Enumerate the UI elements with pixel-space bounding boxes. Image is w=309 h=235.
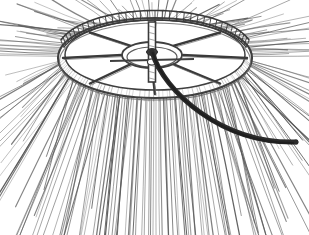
- engraving-canvas: [0, 0, 309, 235]
- engraving-figure: Rotary brush head: [0, 0, 309, 235]
